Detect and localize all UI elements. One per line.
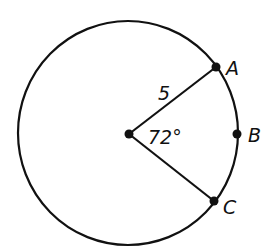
label-b: B (248, 124, 261, 146)
point-b (233, 130, 242, 139)
label-c: C (223, 196, 237, 218)
circle-sector-diagram: A B C 5 72° (0, 0, 275, 248)
label-a: A (224, 57, 239, 79)
center-point (125, 130, 134, 139)
point-c (210, 197, 219, 206)
radius-to-a (129, 67, 216, 134)
radius-label: 5 (158, 82, 170, 104)
point-a (212, 63, 221, 72)
angle-label: 72° (148, 126, 182, 148)
